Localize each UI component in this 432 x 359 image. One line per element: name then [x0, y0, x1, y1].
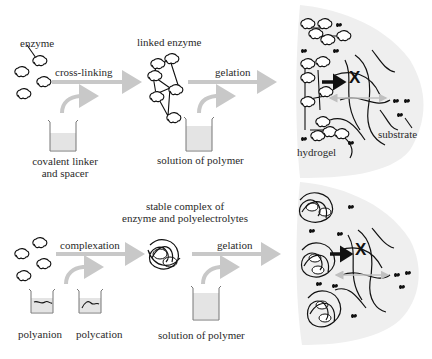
hydrogel-label: hydrogel: [297, 146, 336, 158]
blocked-symbol-top: X: [349, 72, 360, 84]
polyelectrolyte-feed-arrow: [66, 267, 100, 284]
free-enzymes-bottom: [15, 238, 51, 281]
enzyme-label: enzyme: [20, 37, 54, 49]
polycation-label: polycation: [76, 328, 122, 340]
stable-complex-label-line2: enzyme and polyelectrolytes: [110, 212, 260, 224]
covalent-linker-label-line2: and spacer: [20, 167, 110, 179]
gelation-label-bottom: gelation: [217, 239, 252, 251]
beaker-polymer-top: [184, 117, 214, 151]
polymer-feed-arrow-bottom: [203, 267, 236, 284]
cross-linking-label: cross-linking: [55, 66, 112, 78]
free-enzymes-top: [15, 45, 51, 99]
polymer-feed-arrow-top: [199, 96, 232, 113]
gelation-label-top: gelation: [215, 66, 250, 78]
process-diagram: [0, 0, 432, 359]
blocked-symbol-bottom: X: [355, 244, 366, 256]
stable-complex-label: stable complex of enzyme and polyelectro…: [110, 200, 260, 224]
beaker-polyanion: [29, 289, 55, 313]
covalent-linker-label: covalent linker and spacer: [20, 155, 110, 179]
reagent-feed-arrow: [62, 96, 95, 113]
polyanion-label: polyanion: [18, 328, 62, 340]
linked-enzyme-label: linked enzyme: [137, 36, 201, 48]
beaker-polycation: [77, 289, 103, 313]
linked-enzyme-cluster: [148, 54, 183, 123]
enzyme-icon: [33, 56, 47, 66]
covalent-linker-label-line1: covalent linker: [20, 155, 110, 167]
enzyme-icon: [17, 89, 31, 99]
solution-of-polymer-label-bottom: solution of polymer: [158, 329, 245, 341]
beaker-polymer-bottom: [191, 286, 221, 320]
enzyme-icon: [37, 77, 51, 87]
enzyme-icon: [15, 67, 29, 77]
substrate-label: substrate: [378, 128, 417, 140]
stable-complex-label-line1: stable complex of: [110, 200, 260, 212]
complexation-label: complexation: [60, 239, 120, 251]
beaker-covalent-linker: [48, 120, 78, 151]
solution-of-polymer-label-top: solution of polymer: [157, 154, 244, 166]
enzyme-polyelectrolyte-complex: [148, 240, 180, 269]
